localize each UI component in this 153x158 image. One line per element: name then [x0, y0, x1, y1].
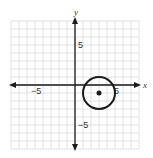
y-axis-up-arrow-icon [72, 17, 78, 24]
coordinate-plane: x y −5 5 5 −5 [0, 0, 153, 158]
x-axis-right-arrow-icon [134, 82, 141, 88]
center-point [97, 91, 102, 96]
x-tick-neg5: −5 [31, 86, 41, 96]
x-axis-left-arrow-icon [9, 82, 16, 88]
x-axis-label: x [142, 80, 147, 90]
y-tick-pos5: 5 [78, 40, 83, 50]
y-tick-neg5: −5 [78, 120, 88, 130]
y-axis-label: y [73, 7, 78, 17]
y-axis-down-arrow-icon [72, 144, 78, 151]
